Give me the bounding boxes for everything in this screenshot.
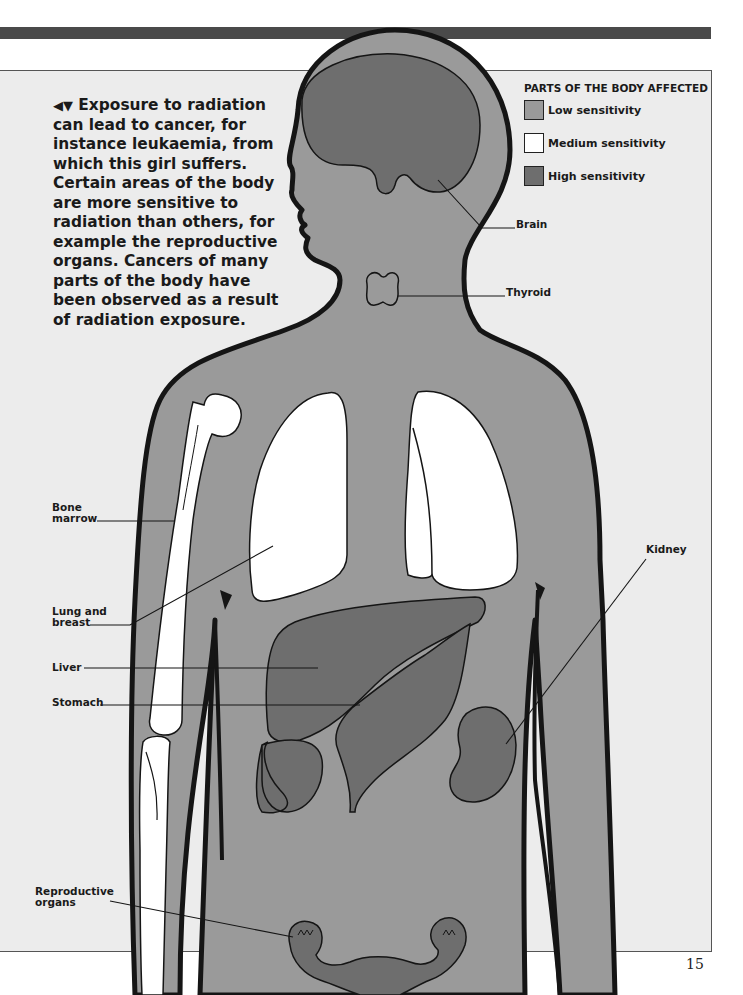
- label-reproductive-line2: organs: [35, 897, 114, 908]
- label-bone-marrow-line2: marrow: [52, 513, 97, 524]
- thyroid-shape: [367, 273, 399, 305]
- legend-swatch-low: [524, 100, 544, 120]
- legend-swatch-medium: [524, 133, 544, 153]
- caption-arrows-icon: ◀▼: [53, 98, 73, 113]
- label-thyroid: Thyroid: [506, 287, 551, 298]
- caption-text: Exposure to radiation can lead to cancer…: [53, 96, 278, 329]
- label-lung-line2: breast: [52, 617, 107, 628]
- legend: PARTS OF THE BODY AFFECTED Low sensitivi…: [524, 82, 724, 197]
- legend-title: PARTS OF THE BODY AFFECTED: [524, 82, 724, 94]
- label-kidney: Kidney: [646, 544, 687, 555]
- legend-label-low: Low sensitivity: [548, 104, 641, 117]
- figure-caption: ◀▼ Exposure to radiation can lead to can…: [53, 96, 293, 330]
- legend-swatch-high: [524, 166, 544, 186]
- label-liver: Liver: [52, 662, 81, 673]
- label-brain: Brain: [516, 219, 547, 230]
- legend-item-medium: Medium sensitivity: [524, 131, 724, 155]
- legend-item-high: High sensitivity: [524, 164, 724, 188]
- label-bone-marrow: Bone marrow: [52, 502, 97, 524]
- label-stomach: Stomach: [52, 697, 104, 708]
- legend-label-medium: Medium sensitivity: [548, 137, 666, 150]
- page-number: 15: [686, 956, 704, 972]
- label-lung-breast: Lung and breast: [52, 606, 107, 628]
- label-reproductive-organs: Reproductive organs: [35, 886, 114, 908]
- legend-label-high: High sensitivity: [548, 170, 645, 183]
- legend-item-low: Low sensitivity: [524, 98, 724, 122]
